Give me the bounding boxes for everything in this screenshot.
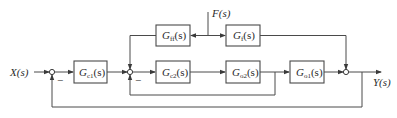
- gf-label: Gf(s): [233, 29, 255, 43]
- input-label: X(s): [9, 66, 29, 79]
- sum2-minus-sign: −: [135, 74, 141, 86]
- sum1-minus-sign: −: [57, 74, 63, 86]
- gff-to-sum2-line: [130, 36, 156, 70]
- output-label: Y(s): [373, 76, 391, 89]
- gff-label: Gff(s): [162, 29, 186, 43]
- block-diagram: X(s) − Gc1(s) − Gff(s) Gc2(s) F(s) Gf(s)…: [0, 0, 397, 118]
- disturbance-label: F(s): [211, 7, 231, 20]
- summing-junction-1: [49, 69, 54, 74]
- summing-junction-2: [127, 69, 132, 74]
- summing-junction-3: [343, 69, 348, 74]
